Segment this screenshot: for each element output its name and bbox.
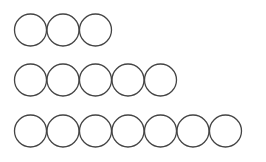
circle-icon bbox=[15, 115, 47, 147]
circle-icon bbox=[177, 115, 209, 147]
circle-row-2 bbox=[15, 64, 177, 96]
circle-icon bbox=[47, 64, 79, 96]
circle-row-1 bbox=[15, 14, 112, 46]
circle-row-3 bbox=[15, 115, 242, 147]
circle-icon bbox=[112, 64, 144, 96]
circle-icon bbox=[80, 14, 112, 46]
circle-icon bbox=[80, 115, 112, 147]
circle-icon bbox=[15, 14, 47, 46]
circle-icon bbox=[47, 115, 79, 147]
circle-icon bbox=[145, 64, 177, 96]
circle-icon bbox=[80, 64, 112, 96]
circle-icon bbox=[112, 115, 144, 147]
circle-icon bbox=[15, 64, 47, 96]
circle-rows-diagram bbox=[0, 0, 266, 162]
circle-icon bbox=[47, 14, 79, 46]
circle-icon bbox=[210, 115, 242, 147]
circle-icon bbox=[145, 115, 177, 147]
